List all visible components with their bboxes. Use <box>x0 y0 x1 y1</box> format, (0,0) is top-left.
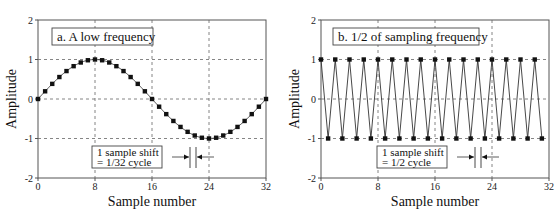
data-point-marker <box>362 57 366 61</box>
data-point-marker <box>157 105 161 109</box>
data-point-marker <box>518 57 522 61</box>
data-point-marker <box>121 69 125 73</box>
y-tick-label: 0 <box>311 94 316 105</box>
data-point-marker <box>419 57 423 61</box>
x-tick-label: 24 <box>204 181 214 192</box>
data-point-marker <box>369 136 373 140</box>
data-point-marker <box>440 136 444 140</box>
data-point-marker <box>347 57 351 61</box>
data-point-marker <box>504 57 508 61</box>
data-point-marker <box>354 136 358 140</box>
data-point-marker <box>340 136 344 140</box>
data-point-marker <box>468 136 472 140</box>
chart-panel-b: 210-1-208162432Sample numberAmplitudeb. … <box>287 15 554 210</box>
data-point-marker <box>490 57 494 61</box>
x-tick-label: 24 <box>487 181 497 192</box>
data-point-marker <box>533 57 537 61</box>
y-tick-label: 2 <box>28 15 33 26</box>
annotation-line2: = 1/32 cycle <box>97 156 152 168</box>
data-point-marker <box>36 97 40 101</box>
data-point-marker <box>143 89 147 93</box>
x-tick-label: 32 <box>544 181 554 192</box>
data-point-marker <box>264 97 268 101</box>
data-point-marker <box>207 136 211 140</box>
data-point-marker <box>383 136 387 140</box>
x-tick-label: 16 <box>147 181 157 192</box>
data-point-marker <box>178 125 182 129</box>
data-point-marker <box>454 136 458 140</box>
data-point-marker <box>79 60 83 64</box>
data-point-marker <box>128 75 132 79</box>
data-point-marker <box>150 97 154 101</box>
x-tick-label: 16 <box>430 181 440 192</box>
chart-title: b. 1/2 of sampling frequency <box>338 29 488 44</box>
data-point-marker <box>404 57 408 61</box>
data-point-marker <box>397 136 401 140</box>
data-point-marker <box>411 136 415 140</box>
data-point-marker <box>193 133 197 137</box>
data-point-marker <box>64 69 68 73</box>
x-tick-label: 0 <box>319 181 324 192</box>
data-point-marker <box>50 82 54 86</box>
data-point-marker <box>257 105 261 109</box>
data-point-marker <box>390 57 394 61</box>
annotation-line2: = 1/2 cycle <box>382 156 431 168</box>
arrow-right-head-icon <box>469 155 474 160</box>
y-axis-label: Amplitude <box>287 69 302 129</box>
data-point-marker <box>525 136 529 140</box>
arrow-right-head-icon <box>184 155 189 160</box>
x-axis-label: Sample number <box>391 194 480 209</box>
data-point-marker <box>221 133 225 137</box>
data-point-marker <box>86 58 90 62</box>
data-point-marker <box>540 136 544 140</box>
x-tick-label: 8 <box>93 181 98 192</box>
x-tick-label: 32 <box>261 181 271 192</box>
data-point-marker <box>136 82 140 86</box>
data-point-marker <box>497 136 501 140</box>
y-tick-label: 2 <box>311 15 316 26</box>
y-tick-label: 1 <box>311 54 316 65</box>
y-tick-label: -2 <box>308 173 316 184</box>
x-axis-label: Sample number <box>108 194 197 209</box>
data-point-marker <box>235 125 239 129</box>
data-point-marker <box>100 58 104 62</box>
figure: 210-1-208162432Sample numberAmplitudea. … <box>0 0 560 215</box>
data-point-marker <box>107 60 111 64</box>
arrow-left-head-icon <box>197 155 202 160</box>
x-tick-label: 8 <box>376 181 381 192</box>
data-point-marker <box>164 112 168 116</box>
y-tick-label: -2 <box>25 173 33 184</box>
data-point-marker <box>511 136 515 140</box>
data-point-marker <box>483 136 487 140</box>
data-point-marker <box>71 64 75 68</box>
y-tick-label: -1 <box>25 133 33 144</box>
data-point-marker <box>200 136 204 140</box>
chart-panel-a: 210-1-208162432Sample numberAmplitudea. … <box>4 15 271 210</box>
y-tick-label: -1 <box>308 133 316 144</box>
data-point-marker <box>114 64 118 68</box>
data-point-marker <box>376 57 380 61</box>
data-point-marker <box>43 89 47 93</box>
data-point-marker <box>461 57 465 61</box>
data-point-marker <box>214 136 218 140</box>
data-point-marker <box>447 57 451 61</box>
data-point-marker <box>333 57 337 61</box>
data-point-marker <box>171 119 175 123</box>
data-point-marker <box>426 136 430 140</box>
chart-title: a. A low frequency <box>57 29 156 44</box>
y-tick-label: 0 <box>28 94 33 105</box>
y-axis-label: Amplitude <box>4 69 19 129</box>
data-point-marker <box>433 57 437 61</box>
data-point-marker <box>476 57 480 61</box>
data-point-marker <box>228 130 232 134</box>
data-point-marker <box>93 57 97 61</box>
data-point-marker <box>326 136 330 140</box>
x-tick-label: 0 <box>36 181 41 192</box>
arrow-left-head-icon <box>482 155 487 160</box>
data-point-marker <box>185 130 189 134</box>
data-point-marker <box>250 112 254 116</box>
y-tick-label: 1 <box>28 54 33 65</box>
data-point-marker <box>242 119 246 123</box>
data-point-marker <box>319 57 323 61</box>
data-point-marker <box>57 75 61 79</box>
